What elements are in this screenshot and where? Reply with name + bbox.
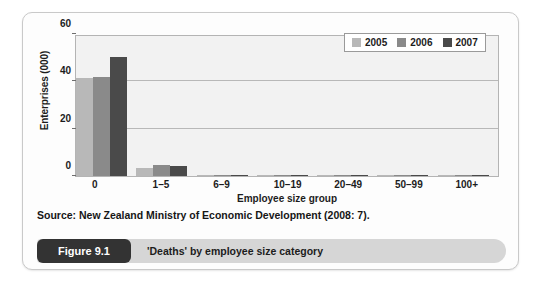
figure-number-badge: Figure 9.1 — [37, 239, 131, 263]
y-tick-label: 60 — [43, 18, 71, 29]
plot-area: 0204060 — [75, 35, 499, 177]
y-axis-title: Enterprises (000) — [39, 36, 50, 146]
y-tick-mark — [72, 33, 76, 34]
bar-2005 — [317, 175, 334, 176]
bar-2007 — [411, 175, 428, 176]
bar-2005 — [197, 175, 214, 176]
bar-2005 — [257, 175, 274, 176]
bar-2005 — [438, 175, 455, 176]
bar-2007 — [170, 166, 187, 176]
chart-legend: 200520062007 — [344, 33, 486, 52]
legend-item: 2007 — [443, 37, 478, 48]
legend-swatch-icon — [352, 38, 361, 47]
x-tick-label: 10–19 — [257, 179, 318, 190]
bar-2006 — [153, 165, 170, 176]
bar-2005 — [377, 175, 394, 176]
x-tick-label: 1–5 — [136, 179, 197, 190]
bar-group — [136, 36, 196, 176]
legend-label: 2005 — [365, 37, 387, 48]
legend-item: 2005 — [352, 37, 387, 48]
bar-2007 — [231, 175, 248, 176]
legend-swatch-icon — [443, 38, 452, 47]
x-tick-label: 0 — [75, 179, 136, 190]
legend-label: 2006 — [410, 37, 432, 48]
bar-2006 — [455, 175, 472, 176]
bar-2006 — [214, 175, 231, 176]
legend-label: 2007 — [456, 37, 478, 48]
x-tick-label: 50–99 — [378, 179, 439, 190]
bar-2007 — [291, 175, 308, 176]
source-note: Source: New Zealand Ministry of Economic… — [37, 209, 370, 221]
figure-card: Enterprises (000) 0204060 01–56–910–1920… — [22, 12, 519, 270]
bar-2007 — [472, 175, 489, 176]
bar-2007 — [351, 175, 368, 176]
bar-group — [438, 36, 498, 176]
x-axis-ticks: 01–56–910–1920–4950–99100+ — [75, 179, 499, 190]
x-tick-label: 100+ — [438, 179, 499, 190]
y-tick-label: 0 — [43, 160, 71, 171]
bar-2006 — [394, 175, 411, 176]
figure-caption-bar: Figure 9.1 'Deaths' by employee size cat… — [37, 239, 506, 263]
bar-2006 — [334, 175, 351, 176]
legend-item: 2006 — [397, 37, 432, 48]
figure-caption-text: 'Deaths' by employee size category — [147, 239, 323, 263]
bar-group — [76, 36, 136, 176]
y-tick-label: 20 — [43, 112, 71, 123]
x-tick-label: 20–49 — [317, 179, 378, 190]
bar-2005 — [76, 78, 93, 176]
bar-group — [257, 36, 317, 176]
bar-2007 — [110, 57, 127, 176]
x-axis-title: Employee size group — [75, 193, 499, 204]
bar-2006 — [93, 77, 110, 176]
bar-group — [197, 36, 257, 176]
bars-layer — [76, 36, 498, 176]
bar-2005 — [136, 168, 153, 176]
y-tick-label: 40 — [43, 65, 71, 76]
bar-2006 — [274, 175, 291, 176]
bar-group — [377, 36, 437, 176]
legend-swatch-icon — [397, 38, 406, 47]
x-tick-label: 6–9 — [196, 179, 257, 190]
bar-group — [317, 36, 377, 176]
bar-chart: Enterprises (000) 0204060 01–56–910–1920… — [23, 13, 520, 199]
